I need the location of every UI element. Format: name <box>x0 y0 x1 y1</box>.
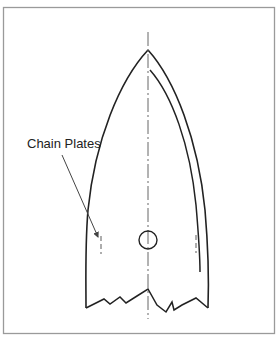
break-line <box>86 289 208 312</box>
callout-leader-arrow <box>62 155 98 237</box>
chain-plates-label: Chain Plates <box>27 136 101 151</box>
frame-border <box>4 8 275 334</box>
hull-diagram: Chain Plates <box>0 0 278 340</box>
hull-outline-port <box>86 50 148 308</box>
